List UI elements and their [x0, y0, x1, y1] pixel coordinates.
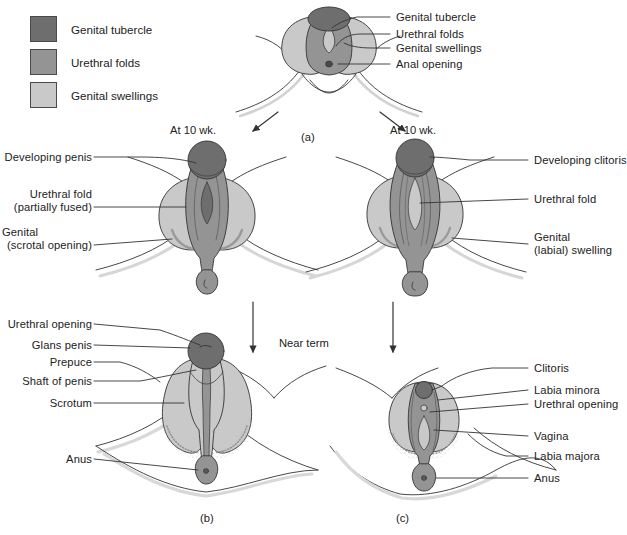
callout-b-anus: Anus [0, 453, 92, 466]
stage-label-near-term: Near term [279, 337, 329, 349]
callout-f10-genital-sub: (labial) swelling [534, 244, 612, 257]
callout-m10-genital-sub: (scrotal opening) [0, 239, 92, 252]
callout-c-labia-majora: Labia majora [534, 450, 600, 463]
panel-female-10wk-figure [306, 139, 526, 296]
callout-m10-urethral-fold-sub: (partially fused) [0, 201, 92, 214]
callout-m10-developing-penis: Developing penis [0, 151, 92, 164]
leader-c-clitoris [432, 368, 528, 390]
callout-b-urethral-opening: Urethral opening [0, 318, 92, 331]
callout-b-shaft-of-penis: Shaft of penis [0, 375, 92, 388]
callout-f10-urethral-fold: Urethral fold [534, 193, 596, 206]
legend-item-urethral-folds: Urethral folds [30, 49, 140, 75]
legend-item-genital-swellings: Genital swellings [30, 82, 158, 108]
leader-m10-developing-penis [94, 157, 196, 163]
callout-c-anus: Anus [534, 472, 560, 485]
callout-b-glans-penis: Glans penis [0, 339, 92, 352]
panel-a-figure [236, 7, 422, 116]
panel-male-10wk-figure [96, 141, 318, 294]
leader-b-anus [94, 459, 198, 470]
leader-m10-genital-scrotal [94, 239, 172, 245]
panel-caption-a: (a) [301, 131, 315, 143]
callout-a-genital-swellings: Genital swellings [396, 42, 482, 55]
legend-swatch-urethral-folds [30, 49, 57, 75]
callout-f10-genital: Genital [534, 231, 570, 244]
legend-swatch-genital-swellings [30, 82, 57, 108]
panel-b-figure [96, 333, 326, 496]
callout-a-urethral-folds: Urethral folds [396, 28, 464, 41]
legend-swatch-genital-tubercle [30, 16, 57, 42]
callout-c-urethral-opening: Urethral opening [534, 398, 618, 411]
legend-label-genital-swellings: Genital swellings [71, 89, 158, 102]
panel-caption-c: (c) [396, 512, 409, 524]
leader-f10-developing-clitoris [430, 157, 528, 160]
callout-c-labia-minora: Labia minora [534, 384, 600, 397]
leader-b-urethral-opening [94, 324, 200, 345]
callout-b-prepuce: Prepuce [0, 356, 92, 369]
callout-m10-urethral-fold: Urethral fold [0, 188, 92, 201]
legend-label-genital-tubercle: Genital tubercle [71, 23, 152, 36]
stage-label-female-10wk: At 10 wk. [390, 124, 436, 136]
legend-item-genital-tubercle: Genital tubercle [30, 16, 152, 42]
callout-b-scrotum: Scrotum [0, 397, 92, 410]
panel-caption-b: (b) [200, 512, 214, 524]
panel-c-figure [330, 368, 556, 499]
leader-b-glans-penis [94, 345, 190, 348]
callout-c-clitoris: Clitoris [534, 362, 569, 375]
leader-f10-genital-labial [452, 238, 528, 244]
stage-label-male-10wk: At 10 wk. [170, 124, 216, 136]
leader-c-labia-majora [468, 434, 528, 456]
callout-a-anal-opening: Anal opening [396, 58, 463, 71]
legend-label-urethral-folds: Urethral folds [71, 56, 140, 69]
callout-m10-genital: Genital [2, 226, 38, 239]
callout-a-genital-tubercle: Genital tubercle [396, 11, 476, 24]
arrow-a-to-male [253, 112, 278, 131]
callout-f10-developing-clitoris: Developing clitoris [534, 154, 627, 167]
callout-c-vagina: Vagina [534, 430, 569, 443]
